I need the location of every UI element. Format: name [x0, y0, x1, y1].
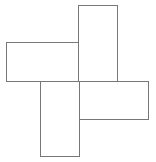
left-horizontal-rectangle [6, 42, 82, 81]
right-horizontal-rectangle [72, 81, 148, 119]
pinwheel-figure-svg: Pinwheel arrangement of four congruent r… [0, 0, 156, 162]
pinwheel-figure-container: Pinwheel arrangement of four congruent r… [0, 0, 156, 162]
top-vertical-rectangle [78, 5, 117, 81]
bottom-vertical-rectangle [40, 81, 79, 156]
